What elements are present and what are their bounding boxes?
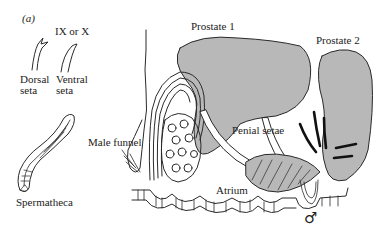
atrium-region	[246, 154, 320, 192]
spermatheca-label: Spermatheca	[16, 196, 73, 208]
panel-label: (a)	[22, 12, 35, 24]
male-symbol: ♂	[304, 212, 317, 224]
ventral-seta-label-2: seta	[56, 84, 73, 96]
male-funnel-drawing	[122, 30, 147, 172]
dorsal-seta-label-2: seta	[20, 84, 37, 96]
ventral-seta-drawing	[61, 44, 77, 72]
segment-label: IX or X	[55, 25, 89, 37]
spermatheca-drawing	[18, 114, 74, 191]
male-funnel-label: Male funnel	[88, 136, 141, 148]
prostate-1-gland	[177, 37, 311, 154]
prostate-2-gland	[318, 50, 372, 181]
prostate-1-label: Prostate 1	[191, 20, 235, 32]
atrium-label: Atrium	[216, 184, 248, 196]
penial-setae-label: Penial setae	[232, 124, 284, 136]
prostate-2-label: Prostate 2	[316, 34, 360, 46]
dorsal-seta-drawing	[32, 38, 48, 70]
